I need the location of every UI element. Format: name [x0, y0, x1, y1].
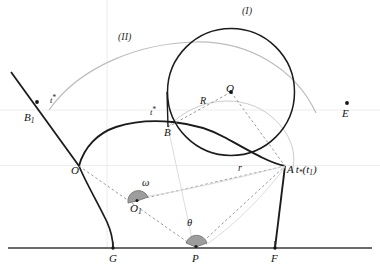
- dashed-O1-A: [137, 166, 285, 200]
- tangent-ray-group: [11, 72, 79, 166]
- tangent-tick-group: [167, 92, 168, 127]
- main-arc-O-B-A: [79, 121, 285, 166]
- dot-G: [111, 246, 114, 249]
- dot-F: [273, 246, 276, 249]
- vertex-dot-P: [195, 245, 198, 248]
- light-arc-P-A: [206, 167, 285, 245]
- light-arc-B-P: [168, 127, 193, 244]
- guide-circle-arc: [168, 101, 294, 172]
- vertex-dot-O1: [136, 199, 139, 202]
- dashed-O-O1-P: [79, 166, 196, 248]
- angle-marker-omega: [128, 191, 148, 203]
- tangent-tick-at-B: [167, 92, 168, 127]
- angle-marker-theta: [186, 235, 207, 248]
- dot-Q: [229, 90, 233, 94]
- dot-E: [345, 101, 349, 105]
- dashed-P-A: [196, 166, 285, 248]
- tangent-ray-B1-O: [11, 72, 79, 166]
- dot-B1: [35, 100, 39, 104]
- main-arc-group: [79, 121, 285, 166]
- diagram-canvas: [0, 0, 380, 273]
- guide-circle-group: [168, 101, 294, 172]
- curve-two-path: [49, 42, 316, 113]
- curve-two-group: [49, 42, 316, 113]
- geometry-figure: (I) (II) t* t* B1 O B Q E O1 G P F At*(t…: [0, 0, 380, 273]
- point-dots: [35, 90, 349, 250]
